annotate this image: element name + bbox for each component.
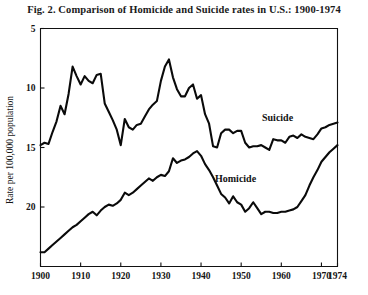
line-chart: 2015105 19001910192019301940195019601970… xyxy=(0,0,368,295)
x-tick-label: 1930 xyxy=(151,271,170,281)
y-axis-tick-labels: 2015105 xyxy=(26,24,36,213)
x-tick-label: 1940 xyxy=(192,271,211,281)
y-tick-label: 20 xyxy=(26,202,36,212)
x-axis-tick-labels: 190019101920193019401950196019701974 xyxy=(31,271,347,281)
y-axis-tick-marks xyxy=(41,29,45,208)
homicide-series-label: Homicide xyxy=(215,173,257,184)
x-tick-label: 1950 xyxy=(232,271,251,281)
x-axis-tick-marks xyxy=(41,263,338,267)
x-tick-label: 1910 xyxy=(71,271,90,281)
y-tick-label: 10 xyxy=(26,83,36,93)
plot-frame xyxy=(41,29,338,267)
suicide-series-line xyxy=(41,59,338,149)
data-series-group xyxy=(41,59,338,252)
y-tick-label: 5 xyxy=(31,24,36,34)
y-axis-title: Rate per 100,000 population xyxy=(5,96,15,204)
homicide-series-line xyxy=(41,145,338,252)
x-tick-label: 1920 xyxy=(111,271,130,281)
y-tick-label: 15 xyxy=(26,143,36,153)
figure-container: Fig. 2. Comparison of Homicide and Suici… xyxy=(0,0,368,295)
x-tick-label: 1960 xyxy=(272,271,291,281)
plot-frame-border xyxy=(41,29,338,267)
x-tick-label: 1900 xyxy=(31,271,50,281)
x-tick-label: 1974 xyxy=(328,271,347,281)
suicide-series-label: Suicide xyxy=(262,112,294,123)
